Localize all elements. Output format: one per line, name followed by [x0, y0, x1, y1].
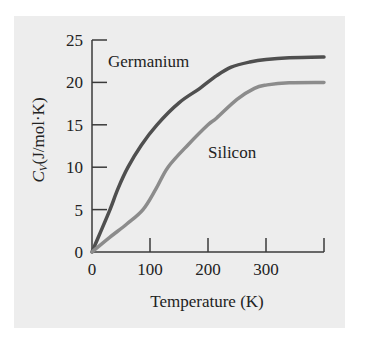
- x-axis-label: Temperature (K): [150, 292, 264, 311]
- y-tick-label: 25: [66, 31, 83, 50]
- heat-capacity-chart: 01002003000510152025 Germanium Silicon T…: [0, 0, 365, 340]
- x-tick-label: 200: [195, 260, 221, 279]
- x-tick-label: 0: [88, 260, 97, 279]
- y-tick-label: 0: [75, 243, 84, 262]
- y-label-rest: (J/mol·K): [29, 97, 48, 164]
- y-tick-label: 10: [66, 158, 83, 177]
- y-axis-label: CV(J/mol·K): [29, 97, 49, 182]
- y-tick-label: 15: [66, 116, 83, 135]
- annotation-germanium: Germanium: [108, 52, 189, 71]
- x-tick-label: 300: [253, 260, 279, 279]
- y-tick-label: 5: [75, 201, 84, 220]
- y-tick-label: 20: [66, 73, 83, 92]
- x-tick-label: 100: [137, 260, 163, 279]
- y-label-main: C: [29, 171, 48, 183]
- annotation-silicon: Silicon: [208, 143, 257, 162]
